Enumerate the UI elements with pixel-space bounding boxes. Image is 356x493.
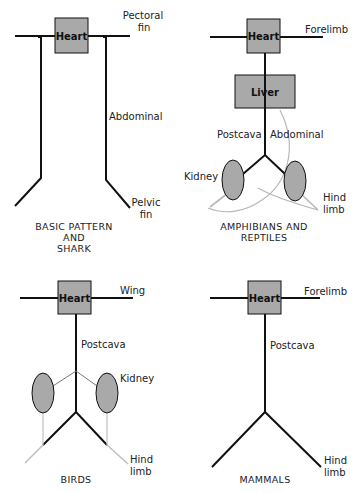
- left-kidney: [32, 373, 54, 413]
- panel-title: REPTILES: [241, 232, 288, 243]
- forelimb-label: Forelimb: [304, 286, 347, 297]
- panel-title: AMPHIBIANS AND: [220, 221, 307, 232]
- liver-label: Liver: [251, 87, 279, 98]
- pectoral-label: Pectoral: [123, 10, 163, 21]
- postcava-label: Postcava: [217, 129, 262, 140]
- right-abdominal-vein: [103, 37, 130, 208]
- right-renal-vein: [76, 371, 97, 386]
- pelvic-label: Pelvic: [132, 197, 161, 208]
- panel-title: BIRDS: [61, 474, 92, 485]
- iliac-branches: [43, 412, 107, 445]
- limb-label: limb: [130, 466, 152, 477]
- fin-label: fin: [138, 22, 151, 33]
- panel-title: AND: [63, 232, 85, 243]
- abdominal-label: Abdominal: [109, 111, 162, 122]
- heart-label: Heart: [248, 31, 280, 42]
- panel-mammals: Heart Forelimb Postcava Hind limb MAMMAL…: [210, 281, 347, 485]
- right-kidney: [96, 373, 118, 413]
- hind-label: Hind: [130, 454, 153, 465]
- fin-label: fin: [140, 209, 153, 220]
- wing-label: Wing: [120, 285, 145, 296]
- right-hindlimb-vein: [107, 445, 128, 464]
- heart-label: Heart: [59, 293, 91, 304]
- left-renal-vein: [53, 371, 76, 386]
- abdominal-label: Abdominal: [270, 129, 323, 140]
- postcava-label: Postcava: [270, 340, 315, 351]
- panel-title: MAMMALS: [239, 474, 290, 485]
- panel-amphibians: Heart Liver Forelimb Postcava Abdominal …: [184, 19, 348, 243]
- forelimb-label: Forelimb: [305, 24, 348, 35]
- left-hindlimb-vein: [25, 445, 43, 463]
- panel-basic: Heart Pectoral fin Abdominal Pelvic fin …: [15, 10, 163, 254]
- panel-title: SHARK: [57, 243, 91, 254]
- kidney-label: Kidney: [184, 171, 218, 182]
- iliac-branches: [212, 412, 321, 467]
- hind-label: Hind: [323, 192, 346, 203]
- hind-label: Hind: [324, 455, 347, 466]
- limb-label: limb: [324, 467, 346, 478]
- left-kidney: [222, 160, 244, 200]
- panel-birds: Heart Wing Postcava Kidney Hind limb BIR…: [20, 281, 154, 485]
- kidney-label: Kidney: [120, 373, 154, 384]
- heart-label: Heart: [249, 293, 281, 304]
- right-kidney: [284, 161, 306, 201]
- renal-branches: [243, 155, 285, 174]
- venous-system-diagram: Heart Pectoral fin Abdominal Pelvic fin …: [0, 0, 356, 493]
- left-lateral-vein: [15, 37, 41, 206]
- heart-label: Heart: [56, 31, 88, 42]
- panel-title: BASIC PATTERN: [35, 221, 112, 232]
- limb-label: limb: [323, 204, 345, 215]
- postcava-label: Postcava: [81, 339, 126, 350]
